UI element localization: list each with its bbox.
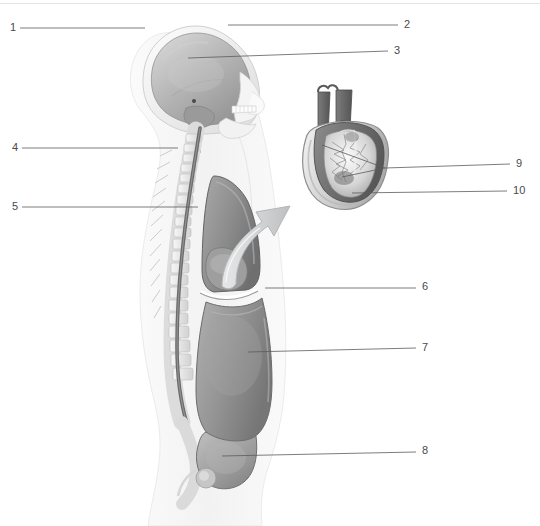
label-8: 8 [422, 445, 428, 456]
label-6: 6 [422, 281, 428, 292]
anatomy-illustration [0, 0, 540, 526]
label-3: 3 [394, 45, 400, 56]
label-10: 10 [513, 185, 526, 196]
label-2: 2 [404, 19, 410, 30]
figure-canvas: 1 2 3 4 5 6 7 8 9 10 [0, 0, 540, 526]
abdominal-cavity [196, 298, 272, 442]
label-1: 1 [10, 22, 16, 33]
label-4: 4 [12, 142, 18, 153]
label-5: 5 [12, 201, 18, 212]
label-9: 9 [516, 158, 522, 169]
label-7: 7 [422, 342, 428, 353]
heart-inset [303, 85, 389, 209]
leader-9 [385, 164, 510, 168]
